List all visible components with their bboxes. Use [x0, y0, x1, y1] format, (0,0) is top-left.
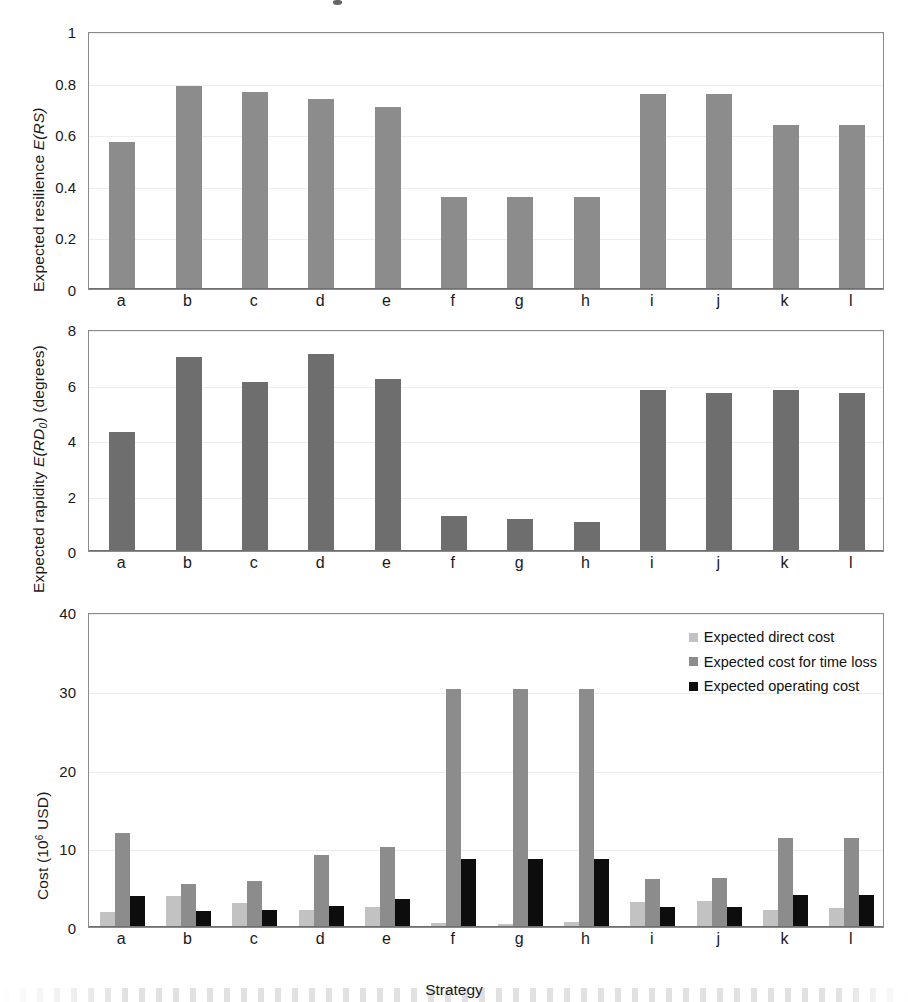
bar-j-series-1	[697, 901, 712, 927]
bar-d	[308, 354, 334, 551]
y-axis-tick-label: 0	[28, 921, 76, 936]
y-axis-tick-label: 6	[28, 378, 76, 393]
bar-b-series-2	[181, 884, 196, 927]
y-axis-tick-label: 0	[28, 545, 76, 560]
gridline	[89, 850, 883, 851]
axis-baseline	[89, 550, 883, 551]
y-axis-tick-label: 0.4	[28, 179, 76, 194]
plot-area-cost: Expected direct costExpected cost for ti…	[88, 613, 884, 928]
bar-d-series-3	[329, 906, 344, 927]
x-axis-tick-label-f: f	[420, 931, 486, 947]
axis-baseline	[89, 288, 883, 289]
x-axis-tick-label-a: a	[88, 931, 154, 947]
legend-swatch-time-loss	[689, 657, 698, 666]
bar-j	[706, 94, 732, 289]
x-axis-tick-label-c: c	[221, 293, 287, 309]
gridline	[89, 239, 883, 240]
x-axis-tick-label-h: h	[552, 931, 618, 947]
scan-artifact-bottom	[0, 988, 908, 1002]
legend-item-2: Expected cost for time loss	[689, 655, 877, 670]
legend-label: Expected direct cost	[704, 630, 835, 645]
bar-g	[507, 519, 533, 551]
bar-a	[109, 432, 135, 551]
gridline	[89, 85, 883, 86]
bar-l	[839, 393, 865, 551]
x-axis-tick-label-b: b	[154, 293, 220, 309]
bar-g-series-2	[513, 689, 528, 927]
bar-a-series-1	[100, 912, 115, 927]
x-axis-tick-label-j: j	[685, 555, 751, 571]
x-axis-tick-label-g: g	[486, 931, 552, 947]
x-axis-tick-label-l: l	[818, 293, 884, 309]
x-axis-tick-label-l: l	[818, 931, 884, 947]
bar-c-series-2	[247, 881, 262, 927]
gridline	[89, 614, 883, 615]
x-axis-tick-label-d: d	[287, 931, 353, 947]
bar-b-series-3	[196, 911, 211, 927]
x-axis-tick-label-i: i	[619, 931, 685, 947]
plot-area-rapidity	[88, 330, 884, 552]
legend-label: Expected cost for time loss	[704, 655, 877, 670]
legend-swatch-direct-cost	[689, 633, 698, 642]
x-axis-tick-label-k: k	[751, 555, 817, 571]
y-axis-tick-label: 10	[28, 842, 76, 857]
bar-a-series-2	[115, 833, 130, 928]
gridline	[89, 442, 883, 443]
bar-a-series-3	[130, 896, 145, 928]
bar-f	[441, 197, 467, 289]
bar-i-series-1	[630, 902, 645, 927]
bar-k	[773, 125, 799, 289]
y-axis-tick-label: 30	[28, 684, 76, 699]
bar-i	[640, 94, 666, 289]
x-axis-tick-label-a: a	[88, 555, 154, 571]
bar-h-series-2	[579, 689, 594, 927]
gridline	[89, 33, 883, 34]
gridline	[89, 136, 883, 137]
bar-j-series-3	[727, 907, 742, 927]
bar-h	[574, 522, 600, 551]
y-axis-tick-label: 0.6	[28, 128, 76, 143]
bar-e-series-1	[365, 907, 380, 927]
bar-e-series-3	[395, 899, 410, 927]
figure-root: Expected resilience E(RS) 00.20.40.60.81…	[0, 0, 908, 1002]
x-axis-tick-label-h: h	[552, 555, 618, 571]
x-axis-tick-label-j: j	[685, 931, 751, 947]
x-axis-tick-label-l: l	[818, 555, 884, 571]
bar-j-series-2	[712, 878, 727, 927]
bar-b-series-1	[166, 896, 181, 928]
x-axis-tick-label-g: g	[486, 293, 552, 309]
gridline	[89, 331, 883, 332]
x-axis-tick-label-k: k	[751, 293, 817, 309]
x-axis-tick-label-i: i	[619, 293, 685, 309]
bar-d-series-1	[299, 910, 314, 927]
bar-l-series-3	[859, 895, 874, 927]
bar-c-series-1	[232, 903, 247, 927]
x-axis-tick-label-f: f	[420, 293, 486, 309]
chart-legend: Expected direct costExpected cost for ti…	[689, 630, 877, 704]
x-axis-tick-label-c: c	[221, 931, 287, 947]
bar-l	[839, 125, 865, 289]
bar-e	[375, 379, 401, 551]
x-axis-tick-label-b: b	[154, 931, 220, 947]
x-axis-tick-label-d: d	[287, 293, 353, 309]
x-axis-tick-label-b: b	[154, 555, 220, 571]
x-axis-tick-label-e: e	[353, 555, 419, 571]
bar-e	[375, 107, 401, 289]
y-axis-tick-label: 8	[28, 323, 76, 338]
x-axis-tick-label-d: d	[287, 555, 353, 571]
axis-baseline	[89, 926, 883, 927]
bar-c-series-3	[262, 910, 277, 927]
x-axis-tick-label-h: h	[552, 293, 618, 309]
legend-label: Expected operating cost	[704, 679, 860, 694]
bar-c	[242, 92, 268, 289]
bar-j	[706, 393, 732, 551]
bar-i-series-2	[645, 879, 660, 927]
x-axis-tick-label-g: g	[486, 555, 552, 571]
bar-b	[176, 86, 202, 289]
y-axis-tick-label: 0.8	[28, 76, 76, 91]
bar-f-series-3	[461, 859, 476, 927]
y-axis-tick-label: 1	[28, 25, 76, 40]
panel-expected-rapidity: Expected rapidity E(RD0) (degrees) 02468…	[0, 310, 908, 600]
bar-l-series-2	[844, 838, 859, 927]
x-axis-tick-label-c: c	[221, 555, 287, 571]
